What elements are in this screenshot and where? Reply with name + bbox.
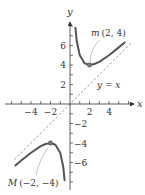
local-minimum-point: [87, 63, 91, 67]
function-plot: −4 −2 2 4 x 6 4 2 −2 −4: [0, 0, 145, 195]
asymptote-label: y = x: [96, 80, 120, 90]
minimum-label: m(2, 4): [91, 28, 126, 38]
y-tick-label: 6: [60, 41, 66, 51]
x-tick-label: 4: [106, 107, 112, 117]
y-tick-label: 4: [60, 60, 66, 70]
asymptote-line: [14, 44, 130, 160]
y-axis: 6 4 2 −2 −4 −6 y: [60, 6, 87, 190]
x-axis-label: x: [137, 98, 143, 109]
x-tick-label: −4: [24, 107, 38, 117]
y-tick-label: −2: [74, 119, 87, 129]
minimum-leader-line: [90, 40, 100, 62]
y-tick-label: −4: [74, 139, 88, 149]
y-axis-label: y: [66, 6, 73, 17]
x-axis: −4 −2 2 4 x: [5, 98, 143, 117]
maximum-label: M(−2, −4): [7, 178, 59, 188]
x-tick-label: 2: [87, 107, 93, 117]
x-tick-label: −2: [44, 107, 57, 117]
maximum-leader-line: [36, 148, 48, 175]
local-maximum-point: [48, 141, 52, 145]
y-tick-label: 2: [60, 80, 66, 90]
y-tick-label: −6: [74, 158, 88, 168]
